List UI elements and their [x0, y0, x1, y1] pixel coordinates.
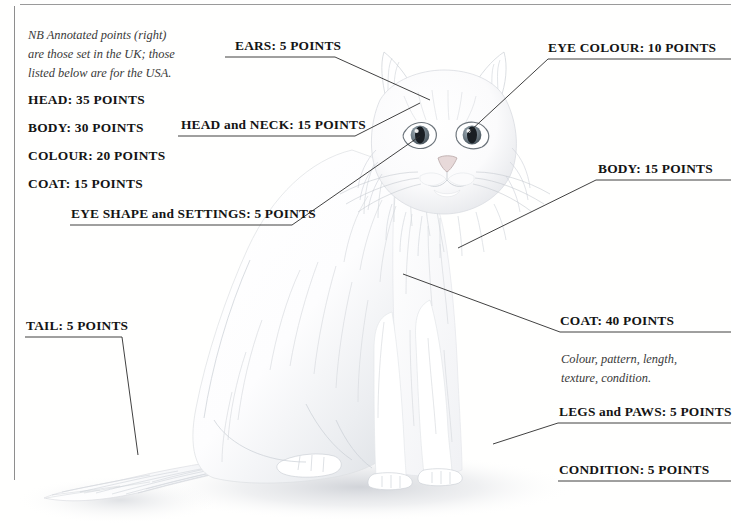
leader-body: [458, 180, 731, 248]
annotation-label-condition: CONDITION: 5 POINTS: [559, 462, 709, 478]
annotation-label-eye-shape: EYE SHAPE and SETTINGS: 5 POINTS: [71, 206, 316, 222]
usa-points-item-head: HEAD: 35 POINTS: [28, 92, 165, 108]
annotation-label-legs-paws: LEGS and PAWS: 5 POINTS: [559, 404, 732, 420]
annotation-label-eye-colour: EYE COLOUR: 10 POINTS: [548, 40, 716, 56]
leader-eye-colour: [468, 59, 731, 133]
leader-tail: [25, 337, 138, 455]
annotation-label-tail: TAIL: 5 POINTS: [26, 318, 128, 334]
annotation-label-head-neck: HEAD and NECK: 15 POINTS: [181, 117, 366, 133]
usa-points-item-colour: COLOUR: 20 POINTS: [28, 148, 165, 164]
coat-detail-note: Colour, pattern, length, texture, condit…: [561, 350, 731, 388]
annotation-label-ears: EARS: 5 POINTS: [235, 38, 341, 54]
annotation-label-body: BODY: 15 POINTS: [598, 161, 713, 177]
usa-points-list: HEAD: 35 POINTS BODY: 30 POINTS COLOUR: …: [28, 92, 165, 204]
usa-note: NB Annotated points (right) are those se…: [28, 26, 258, 84]
leader-legs-paws: [493, 423, 731, 444]
annotation-label-coat: COAT: 40 POINTS: [560, 313, 674, 329]
usa-points-item-coat: COAT: 15 POINTS: [28, 176, 165, 192]
usa-points-item-body: BODY: 30 POINTS: [28, 120, 165, 136]
